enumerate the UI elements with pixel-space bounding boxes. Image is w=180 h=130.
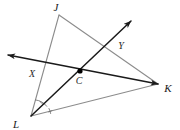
side-LJ	[31, 15, 59, 116]
geometry-figure: J K L C X Y	[0, 0, 180, 130]
label-Y: Y	[118, 40, 125, 51]
point-C-dot	[77, 68, 82, 73]
side-JK	[59, 15, 158, 84]
triangle-sides	[31, 15, 158, 116]
label-C: C	[76, 75, 83, 86]
label-X: X	[28, 68, 36, 79]
label-J: J	[54, 1, 60, 13]
label-L: L	[12, 118, 19, 130]
geometry-diagram-canvas: J K L C X Y	[0, 0, 180, 130]
angle-marks-at-L	[35, 100, 52, 114]
ray-L-through-C-through-Y	[31, 21, 131, 116]
label-K: K	[163, 82, 172, 94]
ray-L-Y-line	[31, 21, 131, 116]
